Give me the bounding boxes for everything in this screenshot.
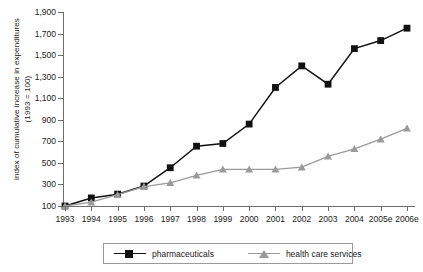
series-line-pharmaceuticals [65, 28, 407, 206]
x-axis-tick [302, 206, 303, 211]
chart-figure: index of cumulative increase in expendit… [0, 0, 423, 272]
x-axis-tick-label: 1997 [161, 214, 180, 224]
y-axis-tick-label: 300 [42, 179, 56, 189]
x-axis-tick [223, 206, 224, 211]
data-point-marker [377, 37, 384, 44]
triangle-marker-icon [248, 249, 280, 259]
x-axis-tick [170, 206, 171, 211]
plot-area: 1003005007009001,1001,3001,5001,7001,900 [63, 12, 415, 206]
x-axis-tick-label: 1995 [108, 214, 127, 224]
y-axis-tick-label: 1,100 [35, 93, 56, 103]
x-axis-tick [118, 206, 119, 211]
x-axis-tick [144, 206, 145, 211]
y-axis-tick-label: 900 [42, 115, 56, 125]
x-axis-tick-label: 2000 [240, 214, 259, 224]
x-axis-tick [197, 206, 198, 211]
y-axis-tick-label: 500 [42, 158, 56, 168]
x-axis-tick [65, 206, 66, 211]
x-axis-tick-label: 2006e [395, 214, 419, 224]
x-axis-tick [275, 206, 276, 211]
data-point-marker [404, 25, 411, 32]
data-point-marker [272, 84, 279, 91]
x-axis-tick-label: 2001 [266, 214, 285, 224]
y-axis-tick-label: 1,900 [35, 7, 56, 17]
y-axis-tick-label: 1,500 [35, 50, 56, 60]
legend-label-health-care-services: health care services [286, 249, 362, 259]
x-axis-tick-label: 2002 [292, 214, 311, 224]
x-axis-tick [407, 206, 408, 211]
x-axis-tick-label: 1993 [56, 214, 75, 224]
x-axis-tick [328, 206, 329, 211]
x-axis-tick [381, 206, 382, 211]
y-axis-tick-label: 100 [42, 201, 56, 211]
x-axis-line [63, 206, 415, 207]
x-axis-tick [91, 206, 92, 211]
x-axis-tick-label: 2003 [319, 214, 338, 224]
data-point-marker [403, 125, 411, 132]
data-point-marker [167, 164, 174, 171]
x-axis-tick-label: 1998 [187, 214, 206, 224]
x-axis-tick-label: 1996 [134, 214, 153, 224]
data-point-marker [350, 145, 358, 152]
chart-legend: pharmaceuticals health care services [103, 243, 353, 264]
data-point-marker [246, 121, 253, 128]
x-axis-tick [354, 206, 355, 211]
y-axis-tick-label: 1,300 [35, 72, 56, 82]
x-axis-tick-label: 2004 [345, 214, 364, 224]
data-point-marker [325, 81, 332, 88]
data-point-marker [298, 62, 305, 69]
legend-item-health-care-services[interactable]: health care services [248, 244, 362, 263]
data-point-marker [377, 135, 385, 142]
x-axis-tick [249, 206, 250, 211]
y-axis-tick-label: 700 [42, 136, 56, 146]
series-layer [63, 12, 415, 206]
data-point-marker [351, 45, 358, 52]
legend-label-pharmaceuticals: pharmaceuticals [152, 249, 214, 259]
x-axis-tick-label: 1994 [82, 214, 101, 224]
legend-item-pharmaceuticals[interactable]: pharmaceuticals [114, 244, 214, 263]
data-point-marker [219, 140, 226, 147]
x-axis-tick-label: 2005e [369, 214, 393, 224]
data-point-marker [193, 143, 200, 150]
y-axis-tick-label: 1,700 [35, 29, 56, 39]
y-axis-title: index of cumulative increase in expendit… [11, 9, 33, 189]
x-axis-tick-label: 1999 [213, 214, 232, 224]
square-marker-icon [114, 249, 146, 259]
